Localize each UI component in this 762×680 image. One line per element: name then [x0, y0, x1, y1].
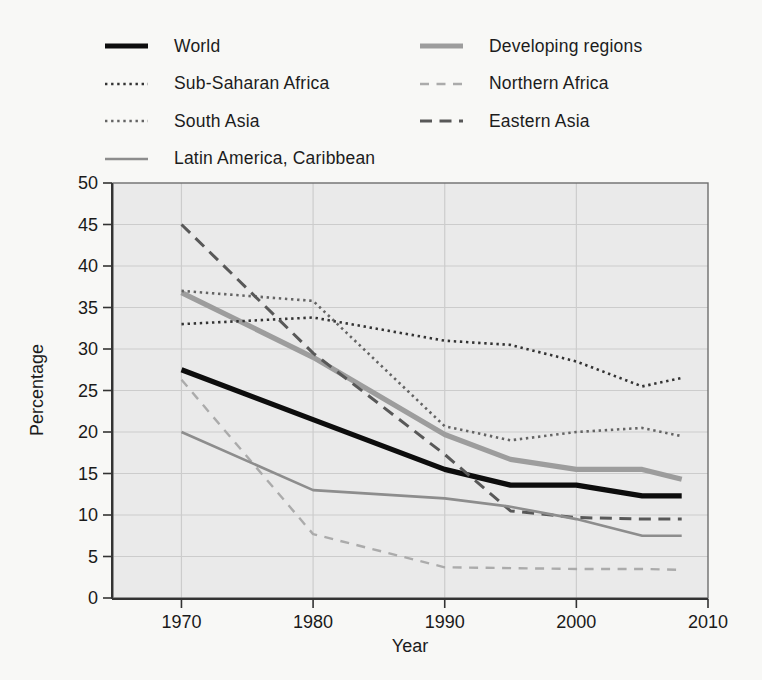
y-tick-label: 45 [78, 215, 98, 235]
y-tick-label: 10 [78, 505, 98, 525]
y-tick-label: 50 [78, 173, 98, 193]
y-tick-label: 20 [78, 422, 98, 442]
y-tick-label: 30 [78, 339, 98, 359]
y-tick-label: 0 [88, 588, 98, 608]
y-tick-label: 40 [78, 256, 98, 276]
x-tick-label: 1990 [425, 612, 465, 632]
chart-figure: WorldSub-Saharan AfricaSouth AsiaLatin A… [0, 0, 762, 680]
x-tick-label: 1970 [161, 612, 201, 632]
x-tick-label: 2010 [688, 612, 728, 632]
x-axis-title: Year [392, 636, 428, 657]
line-chart-plot: 0510152025303540455019701980199020002010 [0, 0, 762, 680]
x-tick-label: 1980 [293, 612, 333, 632]
x-tick-label: 2000 [556, 612, 596, 632]
y-tick-label: 15 [78, 464, 98, 484]
y-axis-title: Percentage [27, 344, 48, 436]
y-tick-label: 25 [78, 381, 98, 401]
y-tick-label: 5 [88, 547, 98, 567]
y-tick-label: 35 [78, 298, 98, 318]
